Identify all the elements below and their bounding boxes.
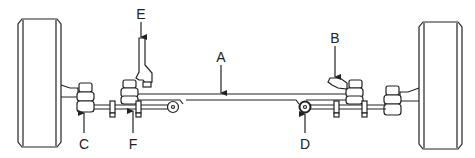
- right-upper-mount: [346, 80, 363, 104]
- right-steering-arm: [328, 78, 347, 89]
- label-d: D: [300, 137, 310, 151]
- right-wheel: [419, 22, 462, 149]
- label-c: C: [79, 137, 89, 151]
- label-a: A: [216, 50, 225, 64]
- label-e: E: [136, 7, 145, 21]
- label-f: F: [129, 137, 138, 151]
- right-idler-pivot: [300, 102, 311, 113]
- axle-beam: [134, 94, 346, 104]
- steering-linkage-diagram: [0, 0, 475, 158]
- pitman-arm: [136, 38, 152, 87]
- left-knuckle: [61, 83, 94, 112]
- label-b: B: [330, 31, 339, 45]
- left-wheel: [18, 19, 61, 147]
- left-idler-pivot: [168, 102, 179, 113]
- right-knuckle: [384, 86, 419, 115]
